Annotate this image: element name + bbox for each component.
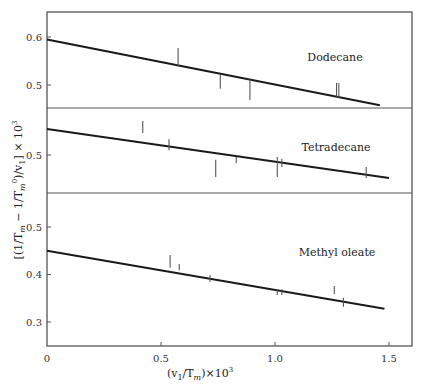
y-axis-title: [(1/Tm − 1/Tm0)/v1] × 103 (11, 121, 27, 260)
y-tick-label: 0.4 (26, 269, 42, 280)
chart: 00.51.01.5 0.50.60.50.30.40.5 DodecaneTe… (0, 0, 424, 387)
y-tick-label: 0.5 (26, 222, 42, 233)
panel-dodecane: Dodecane (47, 39, 380, 105)
panel-tetradecane: Tetradecane (47, 121, 389, 178)
series-label: Tetradecane (301, 141, 370, 154)
series-label: Methyl oleate (299, 246, 376, 259)
y-tick-label: 0.5 (26, 80, 42, 91)
y-tick-label: 0.5 (26, 150, 42, 161)
series-label: Dodecane (307, 51, 362, 64)
panels: DodecaneTetradecaneMethyl oleate (47, 39, 389, 308)
x-tick-label: 0.5 (153, 353, 169, 364)
panel-methyl-oleate: Methyl oleate (47, 246, 384, 309)
x-axis: 00.51.01.5 (44, 342, 397, 364)
fit-line (47, 39, 380, 105)
y-tick-label: 0.6 (26, 32, 42, 43)
y-tick-label: 0.3 (26, 317, 42, 328)
x-tick-label: 0 (44, 353, 50, 364)
x-axis-title: (v1/Tm)×103 (167, 366, 233, 382)
fit-line (47, 251, 384, 309)
x-tick-label: 1.0 (267, 353, 283, 364)
x-tick-label: 1.5 (381, 353, 397, 364)
